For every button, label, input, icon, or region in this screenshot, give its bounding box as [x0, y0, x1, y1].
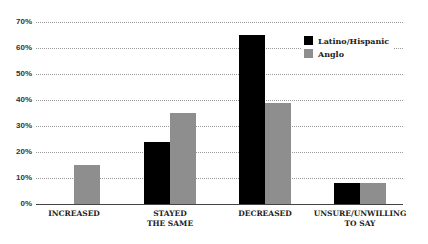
gridline — [36, 74, 403, 75]
bar-anglo — [74, 165, 100, 204]
y-tick-label: 70% — [0, 18, 32, 26]
legend: Latino/Hispanic Anglo — [302, 32, 393, 62]
legend-item-latino: Latino/Hispanic — [304, 34, 389, 47]
x-tick-label: STAYEDTHE SAME — [115, 209, 225, 229]
legend-swatch-latino — [304, 36, 313, 45]
bar-anglo — [170, 113, 196, 204]
x-axis-line — [36, 204, 403, 205]
bar-anglo — [265, 103, 291, 204]
y-tick-label: 20% — [0, 148, 32, 156]
gridline — [36, 22, 403, 23]
y-tick-label: 30% — [0, 122, 32, 130]
x-tick-label: UNSURE/UNWILLINGTO SAY — [305, 209, 415, 229]
bar-latino — [144, 142, 170, 204]
gridline — [36, 152, 403, 153]
y-tick-label: 40% — [0, 96, 32, 104]
y-tick-label: 50% — [0, 70, 32, 78]
x-tick-label: INCREASED — [19, 209, 129, 219]
bar-latino — [334, 183, 360, 204]
y-tick-label: 0% — [0, 200, 32, 208]
bar-latino — [239, 35, 265, 204]
y-tick-label: 10% — [0, 174, 32, 182]
x-tick-label: DECREASED — [210, 209, 320, 219]
gridline — [36, 100, 403, 101]
legend-swatch-anglo — [304, 49, 313, 58]
legend-label-anglo: Anglo — [318, 49, 344, 59]
gridline — [36, 126, 403, 127]
bar-chart: 0%10%20%30%40%50%60%70% INCREASEDSTAYEDT… — [0, 0, 428, 244]
legend-label-latino: Latino/Hispanic — [318, 36, 389, 46]
y-tick-label: 60% — [0, 44, 32, 52]
bar-anglo — [360, 183, 386, 204]
legend-item-anglo: Anglo — [304, 47, 389, 60]
